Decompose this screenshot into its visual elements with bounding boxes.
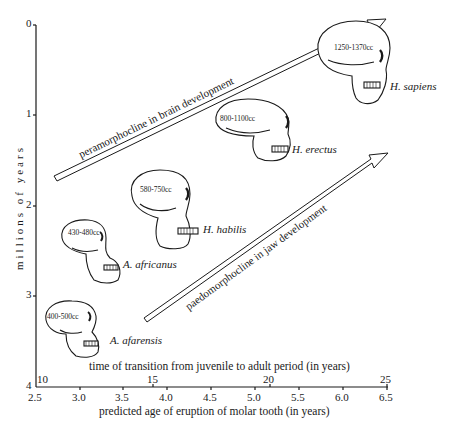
cc-a-africanus: 430-480cc	[68, 228, 100, 237]
x-tick-2.5: 2.5	[28, 391, 42, 403]
x2-tick-10: 10	[37, 373, 48, 385]
x-tick-6.0: 6.0	[335, 391, 349, 403]
x2-tick-20: 20	[263, 373, 274, 385]
y-axis-title: millions of years	[13, 145, 25, 270]
x2-axis-title: time of transition from juvenile to adul…	[89, 360, 350, 372]
x-tick-4.5: 4.5	[203, 391, 217, 403]
species-h-erectus: H. erectus	[292, 143, 337, 155]
x-axis-title: predicted age of eruption of molar tooth…	[99, 405, 330, 417]
skull-h-erectus	[216, 99, 290, 161]
x-tick-5.5: 5.5	[291, 391, 305, 403]
species-h-sapiens: H. sapiens	[390, 80, 436, 92]
species-a-africanus: A. africanus	[123, 258, 177, 270]
species-h-habilis: H. habilis	[203, 223, 246, 235]
x-tick-5.0: 5.0	[247, 391, 261, 403]
species-a-afarensis: A. afarensis	[110, 334, 162, 346]
evolution-figure: 0 1 2 3 4 millions of years 10 15 20 25 …	[0, 0, 450, 432]
x-tick-3.5: 3.5	[115, 391, 129, 403]
x-tick-4.0: 4.0	[159, 391, 173, 403]
skull-a-afarensis	[46, 301, 99, 357]
x-axis	[36, 384, 388, 390]
y-axis	[33, 25, 36, 387]
y-tick-1: 1	[26, 107, 32, 119]
cc-h-erectus: 800-1100cc	[220, 114, 255, 123]
x-tick-6.5: 6.5	[379, 391, 393, 403]
skull-h-sapiens	[318, 21, 390, 104]
cc-a-afarensis: 400-500cc	[47, 312, 79, 321]
y-tick-0: 0	[26, 17, 32, 29]
y-tick-2: 2	[26, 198, 32, 210]
cc-h-habilis: 580-750cc	[140, 185, 172, 194]
y-tick-3: 3	[26, 288, 32, 300]
skull-h-habilis	[131, 170, 198, 249]
x2-tick-15: 15	[147, 373, 158, 385]
x2-tick-25: 25	[380, 373, 391, 385]
y-tick-4: 4	[26, 379, 32, 391]
x-tick-3.0: 3.0	[72, 391, 86, 403]
cc-h-sapiens: 1250-1370cc	[334, 43, 373, 52]
